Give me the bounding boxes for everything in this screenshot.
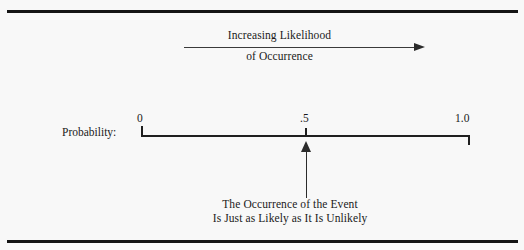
scale-end-tick-zero — [141, 126, 143, 136]
increasing-likelihood-label-line1: Increasing Likelihood — [0, 29, 524, 41]
callout-caption-line2: Is Just as Likely as It Is Unlikely — [28, 212, 524, 224]
tick-label-zero: 0 — [137, 112, 143, 124]
increasing-likelihood-text-line1: Increasing Likelihood — [222, 29, 337, 41]
scale-end-tick-one — [468, 135, 470, 145]
probability-axis-label: Probability: — [62, 126, 116, 138]
callout-caption-line1: The Occurrence of the Event — [28, 198, 524, 210]
increasing-likelihood-label-line2: of Occurrence — [0, 50, 524, 62]
bottom-frame-rule — [7, 240, 518, 243]
callout-arrow-line — [306, 150, 307, 198]
increasing-likelihood-arrow-line — [184, 47, 420, 48]
probability-scale-figure: Increasing Likelihood of Occurrence Prob… — [0, 0, 524, 250]
tick-label-one: 1.0 — [455, 112, 469, 124]
scale-tick-half — [305, 128, 307, 137]
top-frame-rule — [7, 10, 518, 13]
increasing-likelihood-text-line2: of Occurrence — [240, 50, 319, 62]
tick-label-half: .5 — [300, 112, 309, 124]
